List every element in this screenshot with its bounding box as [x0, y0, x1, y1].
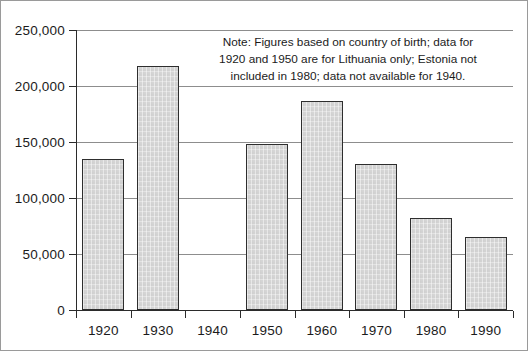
x-axis-tick-label-1990: 1990 [470, 323, 501, 338]
y-axis-tick-label: 250,000 [15, 23, 65, 38]
bar-1980 [410, 218, 452, 310]
x-tick-mark [76, 311, 77, 318]
gridline-250000 [76, 30, 513, 31]
note-line-1: Note: Figures based on country of birth;… [189, 34, 507, 51]
x-tick-mark [240, 311, 241, 318]
x-tick-mark [295, 311, 296, 318]
note-line-2: 1920 and 1950 are for Lithuania only; Es… [189, 51, 507, 68]
note-line-3: included in 1980; data not available for… [189, 68, 507, 85]
x-axis-tick-label-1980: 1980 [416, 323, 447, 338]
x-tick-mark [185, 311, 186, 318]
bar-chart-figure: Note: Figures based on country of birth;… [0, 0, 528, 351]
y-tick-mark-200000 [69, 86, 77, 87]
y-axis-tick-label: 0 [57, 303, 65, 318]
x-tick-mark [404, 311, 405, 318]
bar-1970 [355, 164, 397, 310]
y-axis-tick-label: 50,000 [23, 247, 66, 262]
x-tick-mark [349, 311, 350, 318]
bar-1930 [137, 66, 179, 310]
y-axis-tick-label: 150,000 [15, 135, 65, 150]
x-axis-tick-label-1940: 1940 [197, 323, 228, 338]
x-axis-tick-label-1970: 1970 [361, 323, 392, 338]
x-tick-mark [513, 311, 514, 318]
note-annotation: Note: Figures based on country of birth;… [189, 34, 507, 85]
y-axis-tick-label: 100,000 [15, 191, 65, 206]
x-tick-mark [458, 311, 459, 318]
bar-1960 [301, 101, 343, 310]
bar-1990 [465, 237, 507, 310]
y-tick-mark-150000 [69, 142, 77, 143]
y-tick-mark-250000 [69, 30, 77, 31]
x-axis-tick-label-1930: 1930 [143, 323, 174, 338]
y-tick-mark-100000 [69, 198, 77, 199]
x-tick-mark [131, 311, 132, 318]
x-axis-tick-label-1950: 1950 [252, 323, 283, 338]
y-tick-mark-50000 [69, 254, 77, 255]
y-axis-tick-label: 200,000 [15, 79, 65, 94]
x-axis-tick-label-1920: 1920 [88, 323, 119, 338]
bar-1950 [246, 144, 288, 310]
y-axis-line [76, 30, 77, 311]
bar-1920 [82, 159, 124, 310]
x-axis-tick-label-1960: 1960 [306, 323, 337, 338]
